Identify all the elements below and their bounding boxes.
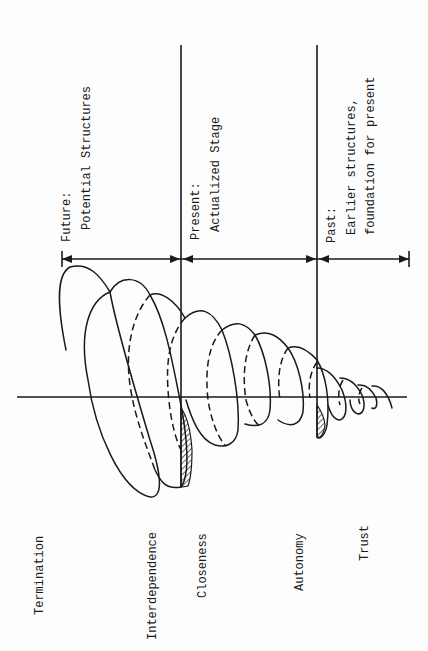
- present-description: Actualized Stage: [209, 117, 223, 232]
- arrowhead-icon: [319, 255, 329, 263]
- past-description-line-2: foundation for present: [364, 77, 378, 235]
- arrowhead-icon: [170, 255, 180, 263]
- arrowhead-icon: [399, 255, 409, 263]
- spiral-diagram: Future: Potential Structures Present: Ac…: [0, 0, 428, 651]
- stage-label-closeness: Closeness: [196, 533, 210, 598]
- past-heading: Past:: [325, 207, 339, 243]
- stage-label-trust: Trust: [358, 525, 372, 561]
- stage-label-interdependence: Interdependence: [146, 532, 160, 640]
- arrowhead-icon: [306, 255, 316, 263]
- present-label: Present: Actualized Stage: [189, 117, 223, 240]
- present-heading: Present:: [189, 182, 203, 240]
- past-label: Past: Earlier structures, foundation for…: [325, 77, 378, 243]
- arrowhead-icon: [62, 255, 72, 263]
- stage-label-autonomy: Autonomy: [293, 533, 307, 591]
- time-span-arrows: [62, 251, 409, 267]
- spiral-back-arcs: [128, 295, 362, 470]
- arrowhead-icon: [183, 255, 193, 263]
- stage-label-termination: Termination: [33, 536, 47, 615]
- future-description: Potential Structures: [80, 86, 94, 230]
- future-heading: Future:: [60, 192, 74, 242]
- past-description-line-1: Earlier structures,: [345, 98, 359, 235]
- hatched-past-stage: [317, 405, 325, 437]
- future-label: Future: Potential Structures: [60, 86, 94, 242]
- stage-labels: Termination Interdependence Closeness Au…: [33, 525, 372, 640]
